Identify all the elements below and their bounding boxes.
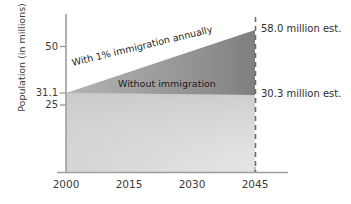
x-tick-label-2045: 2045 <box>232 178 278 190</box>
label-without-immigration: Without immigration <box>118 78 216 89</box>
annotation-bottom-estimate: 30.3 million est. <box>261 88 341 99</box>
area-without-immigration-shade <box>66 93 255 172</box>
y-tick-label-25: 25 <box>18 99 58 110</box>
y-tick-label-31-1: 31.1 <box>18 87 58 98</box>
y-tick-label-50: 50 <box>18 41 58 52</box>
population-projection-chart: Population (in millions) <box>0 0 351 204</box>
x-tick-label-2030: 2030 <box>169 178 215 190</box>
x-tick-label-2015: 2015 <box>106 178 152 190</box>
y-axis-title: Population (in millions) <box>16 0 27 133</box>
x-tick-label-2000: 2000 <box>43 178 89 190</box>
annotation-top-estimate: 58.0 million est. <box>261 23 341 34</box>
